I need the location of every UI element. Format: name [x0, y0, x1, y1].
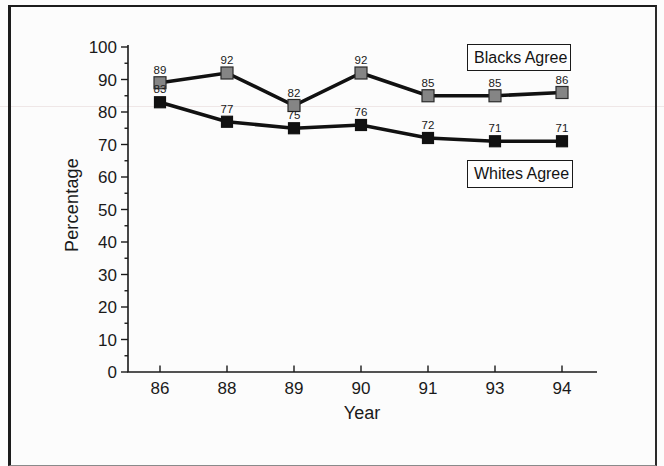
data-point-label: 71	[489, 122, 502, 134]
x-tick-label: 91	[419, 379, 438, 398]
y-axis-title: Percentage	[62, 144, 84, 266]
data-point-label: 75	[288, 109, 301, 121]
x-axis-title: Year	[312, 403, 412, 424]
legend-whites-agree-label: Whites Agree	[474, 165, 569, 183]
data-point-marker	[489, 90, 501, 102]
data-point-marker	[557, 136, 568, 147]
legend-blacks-agree: Blacks Agree	[467, 44, 571, 71]
data-point-marker	[289, 123, 300, 134]
figure: 0102030405060708090100868889909193948992…	[0, 0, 664, 466]
data-point-label: 85	[489, 77, 502, 89]
x-tick-label: 88	[218, 379, 237, 398]
y-tick-label: 80	[98, 103, 117, 122]
data-point-label: 72	[422, 119, 435, 131]
x-tick-label: 89	[285, 379, 304, 398]
data-point-label: 77	[221, 103, 234, 115]
data-point-label: 76	[355, 106, 368, 118]
data-point-label: 85	[422, 77, 435, 89]
data-point-marker	[356, 120, 367, 131]
data-point-marker	[423, 133, 434, 144]
x-tick-label: 94	[553, 379, 572, 398]
data-point-marker	[222, 116, 233, 127]
y-tick-label: 100	[89, 38, 117, 57]
data-point-marker	[490, 136, 501, 147]
data-point-label: 82	[288, 87, 301, 99]
data-point-label: 83	[154, 83, 167, 95]
x-tick-label: 93	[486, 379, 505, 398]
y-tick-label: 60	[98, 168, 117, 187]
data-point-label: 86	[556, 74, 569, 86]
y-tick-label: 90	[98, 71, 117, 90]
y-tick-label: 50	[98, 201, 117, 220]
legend-blacks-agree-label: Blacks Agree	[474, 49, 567, 67]
y-tick-label: 70	[98, 136, 117, 155]
x-tick-label: 86	[151, 379, 170, 398]
legend-whites-agree: Whites Agree	[467, 160, 573, 188]
data-point-label: 71	[556, 122, 569, 134]
y-tick-label: 30	[98, 266, 117, 285]
y-tick-label: 10	[98, 331, 117, 350]
data-point-marker	[221, 67, 233, 79]
data-point-marker	[422, 90, 434, 102]
data-point-label: 89	[154, 64, 167, 76]
data-point-label: 92	[221, 54, 234, 66]
data-point-label: 92	[355, 54, 368, 66]
y-tick-label: 0	[108, 363, 117, 382]
y-tick-label: 40	[98, 233, 117, 252]
data-point-marker	[155, 97, 166, 108]
data-point-marker	[556, 87, 568, 99]
x-tick-label: 90	[352, 379, 371, 398]
data-point-marker	[355, 67, 367, 79]
y-tick-label: 20	[98, 298, 117, 317]
